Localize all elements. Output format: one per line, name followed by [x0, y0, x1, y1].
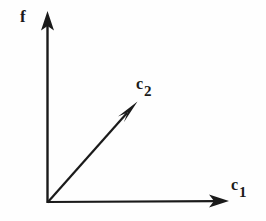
horizontal-axis — [47, 195, 229, 208]
c2-label-subscript: 2 — [144, 83, 152, 99]
vertical-axis-label: f — [20, 8, 26, 25]
vector-diagram-canvas — [0, 0, 266, 221]
c2-label-base: c — [136, 75, 143, 92]
horizontal-axis-line — [47, 201, 216, 202]
vertical-axis — [41, 11, 54, 203]
c2-vector — [48, 102, 138, 203]
c1-label-base: c — [231, 176, 238, 193]
horizontal-axis-label: c1 — [231, 177, 246, 193]
c2-vector-label: c2 — [136, 76, 151, 92]
c2-vector-line — [48, 113, 128, 203]
figure-container: f c2 c1 — [0, 0, 266, 221]
c1-label-subscript: 1 — [239, 184, 247, 200]
